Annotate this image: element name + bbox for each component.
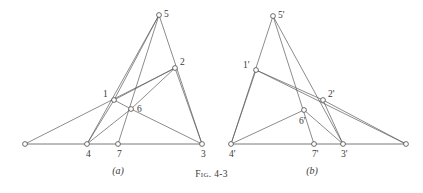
vertex-node-7-prime[interactable]: [312, 142, 317, 147]
edge-node-1-to-node-2: [114, 68, 175, 100]
edge-node-2-prime-to-node-3-prime: [323, 100, 343, 144]
edge-node-5-to-node-3: [159, 15, 202, 144]
label-node-2: 2: [180, 57, 185, 67]
vertex-node-2[interactable]: [173, 66, 178, 71]
caption-number: 4-3: [214, 169, 228, 179]
edge-node-6-prime-to-node-4-prime: [231, 110, 304, 144]
panel-b-edges: [231, 16, 406, 144]
figure-canvas: 1234567 4'1'5'6'7'2'3' (a)(b): [0, 0, 423, 193]
label-node-4: 4: [86, 149, 91, 159]
edge-node-1-prime-to-right-anchor: [256, 70, 406, 144]
vertex-node-1-prime[interactable]: [254, 68, 259, 73]
vertex-node-5-prime[interactable]: [271, 14, 276, 19]
vertex-node-1[interactable]: [112, 98, 117, 103]
label-node-2-prime: 2': [328, 89, 335, 99]
vertex-node-7[interactable]: [116, 142, 121, 147]
label-node-1: 1: [103, 89, 108, 99]
vertex-node-4[interactable]: [85, 142, 90, 147]
vertex-node-5[interactable]: [157, 13, 162, 18]
vertex-node-3-prime[interactable]: [341, 142, 346, 147]
vertex-node-2-prime[interactable]: [321, 98, 326, 103]
edge-node-1-prime-to-node-2-prime: [256, 70, 323, 100]
panel-a-vertices: 1234567: [23, 9, 206, 159]
vertex-node-6-prime[interactable]: [302, 108, 307, 113]
edge-node-6-prime-to-node-3-prime: [304, 110, 343, 144]
figure-4-3: 1234567 4'1'5'6'7'2'3' (a)(b) Fig. 4-3: [0, 0, 423, 193]
label-node-1-prime: 1': [243, 60, 250, 70]
label-node-7-prime: 7': [312, 149, 319, 159]
label-node-7: 7: [117, 149, 122, 159]
edge-node-1-prime-to-node-4-prime: [231, 70, 256, 144]
label-node-5-prime: 5': [278, 10, 285, 20]
label-node-6: 6: [137, 104, 142, 114]
edge-left-anchor-to-node-2: [25, 68, 175, 144]
panel-b-vertices: 4'1'5'6'7'2'3': [229, 10, 409, 159]
edge-node-5-to-node-4: [87, 15, 159, 144]
label-node-3: 3: [201, 149, 206, 159]
figure-caption: Fig. 4-3: [0, 169, 423, 179]
label-node-4-prime: 4': [229, 149, 236, 159]
label-node-3-prime: 3': [341, 149, 348, 159]
panel-a-edges: [25, 15, 202, 144]
vertex-left-anchor[interactable]: [23, 142, 28, 147]
caption-prefix: Fig.: [195, 169, 211, 179]
edge-node-6-to-node-4: [87, 109, 131, 144]
vertex-node-3[interactable]: [200, 142, 205, 147]
edge-node-1-to-node-6: [114, 100, 131, 109]
vertex-right-anchor[interactable]: [404, 142, 409, 147]
label-node-5: 5: [164, 9, 169, 19]
edge-node-6-to-node-2: [131, 68, 175, 109]
vertex-node-6[interactable]: [129, 107, 134, 112]
label-node-6-prime: 6': [299, 116, 306, 126]
vertex-node-4-prime[interactable]: [229, 142, 234, 147]
